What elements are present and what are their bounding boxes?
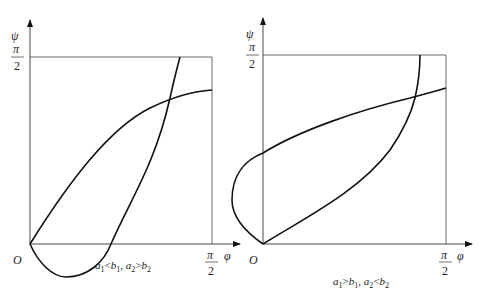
psi-label: ψ <box>246 27 254 41</box>
x-two-label: 2 <box>442 264 448 278</box>
caption-right: a1>b1, a2<b2 <box>333 275 389 290</box>
caption-left: a1<b1, a2>b2 <box>95 259 151 274</box>
left-chart: ψ π 2 O π 2 φ a1<b1, a2>b2 <box>11 20 240 278</box>
right-chart: ψ π 2 O π 2 φ a1>b1, a2<b2 <box>232 18 472 290</box>
origin-label: O <box>13 253 22 267</box>
x-two-label: 2 <box>208 264 214 278</box>
y-two-label: 2 <box>14 59 20 73</box>
y-pi-label: π <box>249 40 256 54</box>
diagram-canvas: ψ π 2 O π 2 φ a1<b1, a2>b2 ψ π 2 O π 2 φ… <box>0 0 484 302</box>
phi-label: φ <box>457 249 464 263</box>
x-pi-label: π <box>441 248 448 262</box>
curve-1 <box>232 88 446 244</box>
curve-2 <box>263 55 420 244</box>
x-pi-label: π <box>207 248 214 262</box>
origin-label: O <box>249 253 258 267</box>
y-pi-label: π <box>13 42 20 56</box>
psi-label: ψ <box>11 29 19 43</box>
y-two-label: 2 <box>249 57 255 71</box>
phi-label: φ <box>224 249 231 263</box>
